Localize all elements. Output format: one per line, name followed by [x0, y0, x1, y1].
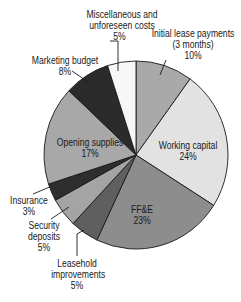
label-lease: Initial lease payments (3 months) 10%	[150, 28, 236, 61]
label-ffe: FF&E 23%	[125, 204, 159, 226]
label-leasehold: Leasehold improvements 5%	[51, 258, 103, 291]
leader-insurance	[33, 186, 52, 194]
label-marketing: Marketing budget 8%	[31, 55, 100, 77]
label-security: Security deposits 5%	[23, 220, 66, 253]
leader-leasehold	[77, 230, 84, 256]
label-opening: Opening supplies 17%	[51, 137, 128, 159]
label-working: Working capital 24%	[154, 140, 223, 162]
label-insurance: Insurance 3%	[8, 195, 51, 217]
